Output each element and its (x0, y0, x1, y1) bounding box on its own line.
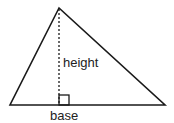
height-label: height (63, 55, 99, 70)
base-label: base (50, 108, 78, 123)
right-angle-marker (59, 95, 69, 105)
triangle-diagram: height base (0, 0, 174, 123)
